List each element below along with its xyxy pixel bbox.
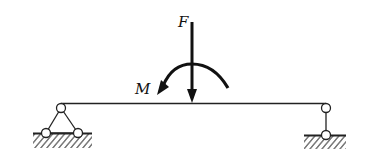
force-arrow [187, 22, 197, 103]
left-ground-hatch [33, 134, 92, 148]
beam-diagram: F M [0, 0, 368, 159]
left-base-hinge-1 [42, 129, 51, 138]
left-top-hinge [57, 104, 66, 113]
force-label: F [177, 13, 189, 31]
right-top-hinge [322, 104, 331, 113]
moment-label: M [134, 80, 151, 98]
right-roller-support [304, 104, 346, 150]
left-base-hinge-2 [74, 129, 83, 138]
left-pin-support [33, 104, 92, 149]
right-base-hinge [322, 131, 331, 140]
